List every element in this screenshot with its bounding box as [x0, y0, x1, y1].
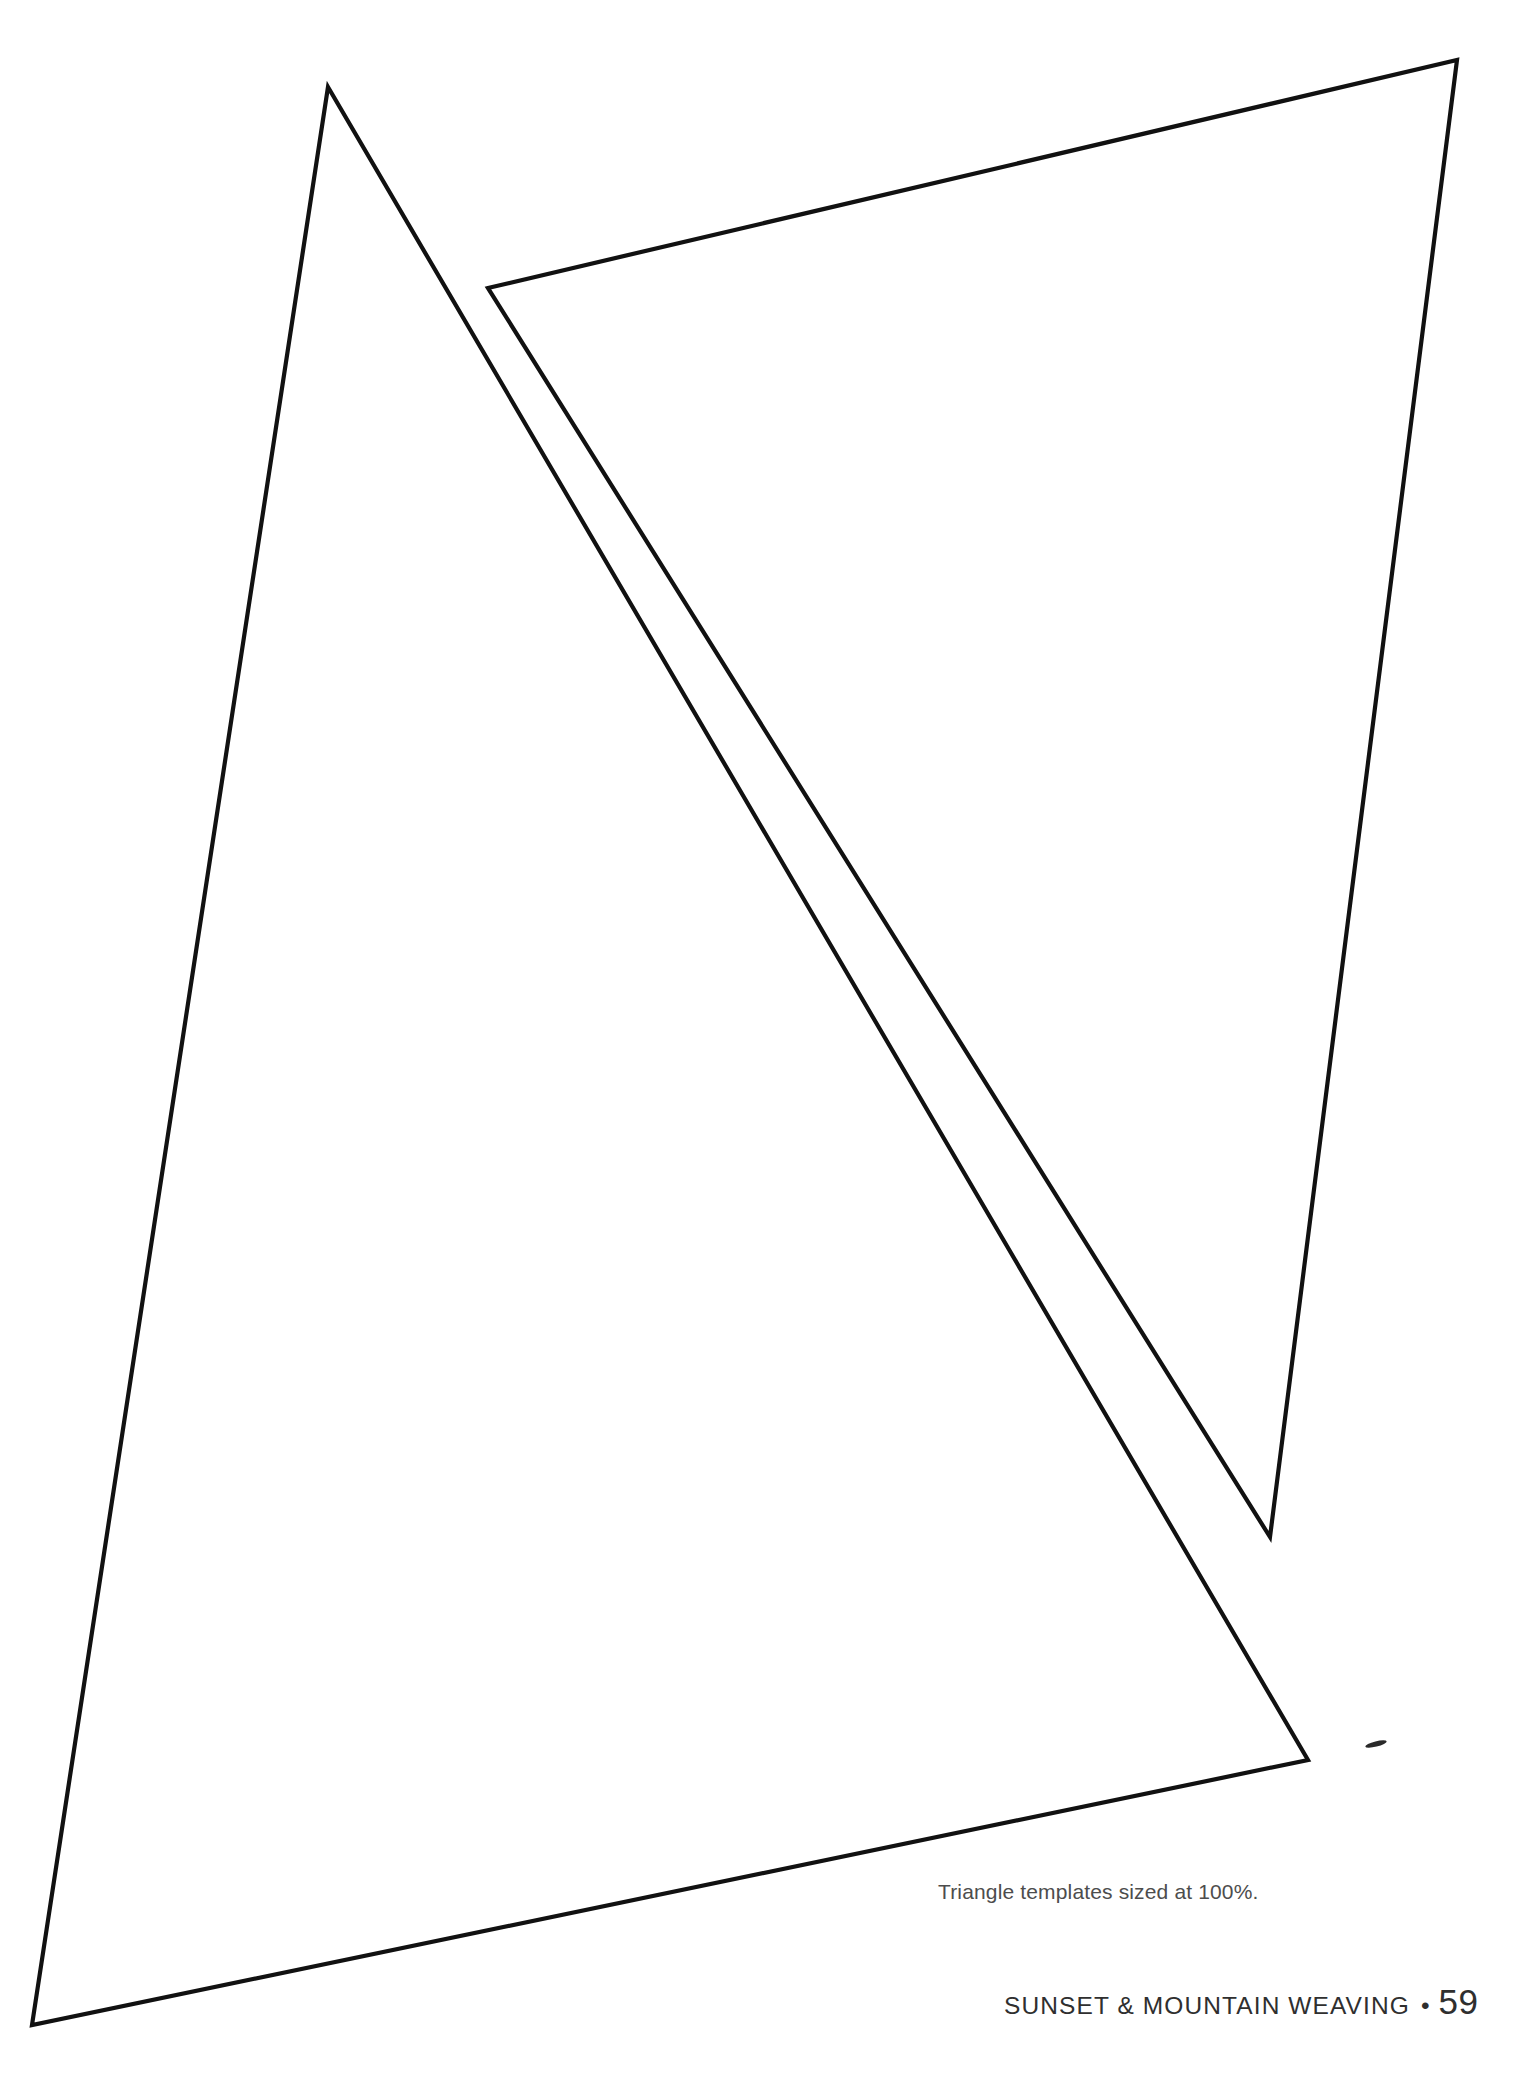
triangle-templates-artwork	[0, 0, 1527, 2083]
page-footer: SUNSET & MOUNTAIN WEAVING • 59	[1004, 1982, 1478, 2022]
template-page: Triangle templates sized at 100%. SUNSET…	[0, 0, 1527, 2083]
stray-ink-mark	[1365, 1739, 1388, 1749]
footer-book-title: SUNSET & MOUNTAIN WEAVING	[1004, 1992, 1410, 2020]
template-scale-caption: Triangle templates sized at 100%.	[938, 1879, 1259, 1905]
footer-page-number: 59	[1439, 1982, 1479, 2022]
footer-bullet-separator: •	[1410, 1992, 1439, 2020]
